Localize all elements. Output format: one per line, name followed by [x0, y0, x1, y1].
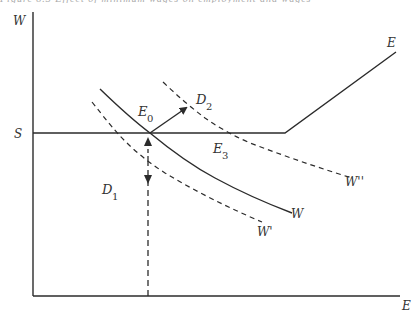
e0-subscript: 0: [147, 113, 153, 124]
d2-subscript: 2: [206, 101, 212, 112]
supply-e-curve: [33, 52, 396, 133]
w-prime-label: W': [257, 225, 273, 239]
y-axis-label: W: [13, 14, 27, 28]
down-arrow-icon: [144, 175, 152, 184]
d1-demand-curve: [92, 102, 262, 222]
up-arrow-icon: [144, 137, 152, 146]
d1-subscript: 1: [112, 191, 118, 202]
labor-market-diagram: W E S E W W' W'' D 1 D 2 E 0 E 3: [0, 0, 413, 312]
e-curve-label: E: [386, 36, 396, 50]
w-double-prime-label: W'': [345, 175, 364, 189]
w-curve: [100, 89, 292, 213]
s-level-label: S: [14, 127, 22, 141]
e3-subscript: 3: [222, 150, 228, 161]
shift-arrow: [150, 108, 186, 133]
x-axis-label: E: [401, 299, 411, 312]
w-curve-label: W: [291, 207, 305, 221]
